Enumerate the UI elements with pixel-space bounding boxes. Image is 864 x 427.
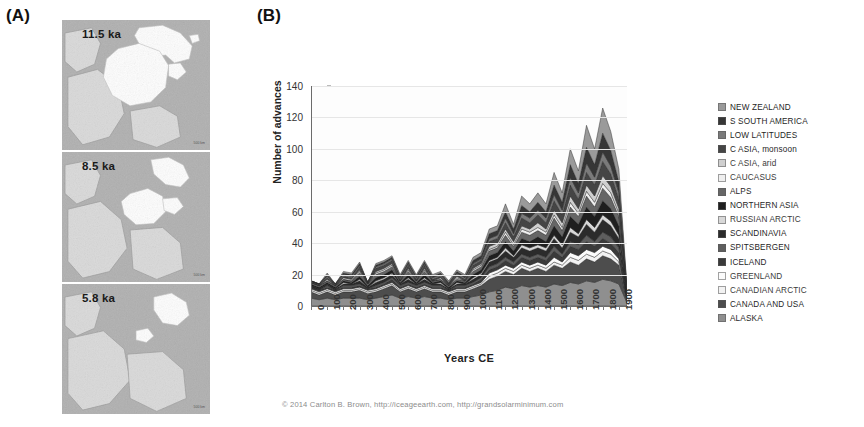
x-tick-mark [408,306,409,310]
legend-item[interactable]: CANADIAN ARCTIC [718,283,864,297]
y-tick-label: 20 [275,269,303,280]
panel-a-map-strip: 11.5 ka500 km8.5 ka500 km5.8 ka500 km [62,20,210,425]
gridline [311,243,627,244]
legend-item-label: CAUCASUS [730,173,777,182]
x-tick-mark [619,306,620,310]
legend-swatch-icon [718,174,726,182]
y-axis-tick-labels: 020406080100120140 [275,86,303,306]
legend-item-label: SPITSBERGEN [730,243,790,252]
legend-item[interactable]: C ASIA, monsoon [718,142,864,156]
x-tick-label: 300 [364,294,375,310]
x-tick-mark [538,306,539,310]
y-tick-label: 80 [275,175,303,186]
legend-item[interactable]: ALASKA [718,311,864,325]
legend-swatch-icon [718,286,726,294]
legend-item[interactable]: NORTHERN ASIA [718,199,864,213]
map-tile-age-label: 5.8 ka [82,292,115,304]
x-tick-label: 1400 [542,289,553,310]
y-tick-label: 100 [275,143,303,154]
legend-item[interactable]: S SOUTH AMERICA [718,114,864,128]
legend-swatch-icon [718,258,726,266]
x-tick-label: 500 [396,294,407,310]
x-tick-mark [343,306,344,310]
map-scale-bar: 500 km [194,141,205,145]
y-tick-label: 140 [275,81,303,92]
x-tick-mark [360,306,361,310]
legend-item-label: RUSSIAN ARCTIC [730,215,801,224]
legend-swatch-icon [718,216,726,224]
x-tick-label: 1900 [623,289,634,310]
x-tick-label: 1300 [526,289,537,310]
x-tick-mark [522,306,523,310]
gridline [311,117,627,118]
y-tick-label: 120 [275,112,303,123]
x-tick-label: 600 [412,294,423,310]
legend-item-label: CANADA AND USA [730,300,804,309]
legend-item-label: ICELAND [730,258,767,267]
legend-swatch-icon [718,159,726,167]
legend-swatch-icon [718,202,726,210]
y-tick-label: 0 [275,301,303,312]
chart-plot-region: Number of advances 020406080100120140 01… [255,14,745,344]
legend-item[interactable]: GREENLAND [718,269,864,283]
legend-item[interactable]: RUSSIAN ARCTIC [718,213,864,227]
legend-item[interactable]: C ASIA, arid [718,156,864,170]
x-tick-mark [327,306,328,310]
x-tick-mark [554,306,555,310]
legend-swatch-icon [718,188,726,196]
legend-swatch-icon [718,145,726,153]
legend-item-label: GREENLAND [730,272,782,281]
stacked-area-svg [311,86,627,306]
x-tick-label: 1600 [574,289,585,310]
legend-item-label: NEW ZEALAND [730,103,791,112]
legend-item-label: ALASKA [730,314,763,323]
x-tick-mark [570,306,571,310]
x-tick-label: 800 [445,294,456,310]
gridline [311,180,627,181]
legend-item-label: C ASIA, arid [730,159,776,168]
x-tick-label: 200 [347,294,358,310]
x-tick-label: 400 [380,294,391,310]
legend-item[interactable]: ALPS [718,185,864,199]
chart-legend: NEW ZEALANDS SOUTH AMERICALOW LATITUDESC… [718,100,864,326]
legend-item[interactable]: SPITSBERGEN [718,241,864,255]
panel-b-chart: Number of advances 020406080100120140 01… [255,14,864,414]
x-tick-mark [311,306,312,310]
map-tile-age-label: 8.5 ka [82,160,115,172]
y-tick-label: 40 [275,238,303,249]
map-tile-2: 5.8 ka500 km [62,284,210,414]
x-tick-mark [457,306,458,310]
legend-swatch-icon [718,131,726,139]
x-tick-label: 900 [461,294,472,310]
x-tick-mark [392,306,393,310]
x-tick-mark [489,306,490,310]
map-scale-bar: 500 km [194,405,205,409]
x-tick-label: 0 [315,305,326,310]
legend-item[interactable]: CANADA AND USA [718,297,864,311]
x-tick-mark [505,306,506,310]
legend-item-label: SCANDINAVIA [730,229,787,238]
y-tick-label: 60 [275,206,303,217]
legend-swatch-icon [718,314,726,322]
x-tick-label: 1200 [509,289,520,310]
legend-item[interactable]: SCANDINAVIA [718,227,864,241]
map-tile-age-label: 11.5 ka [82,28,121,40]
legend-item[interactable]: CAUCASUS [718,170,864,184]
x-tick-label: 100 [331,294,342,310]
x-tick-mark [424,306,425,310]
panel-a-label: (A) [6,6,30,26]
legend-swatch-icon [718,300,726,308]
legend-item[interactable]: NEW ZEALAND [718,100,864,114]
legend-item-label: C ASIA, monsoon [730,145,797,154]
gridline [311,275,627,276]
legend-swatch-icon [718,117,726,125]
legend-swatch-icon [718,230,726,238]
x-tick-mark [441,306,442,310]
legend-item[interactable]: LOW LATITUDES [718,128,864,142]
legend-swatch-icon [718,244,726,252]
x-axis-tick-labels: 0100200300400500600700800900100011001200… [311,310,627,358]
legend-item-label: ALPS [730,187,752,196]
x-tick-mark [376,306,377,310]
legend-item-label: NORTHERN ASIA [730,201,799,210]
legend-item[interactable]: ICELAND [718,255,864,269]
